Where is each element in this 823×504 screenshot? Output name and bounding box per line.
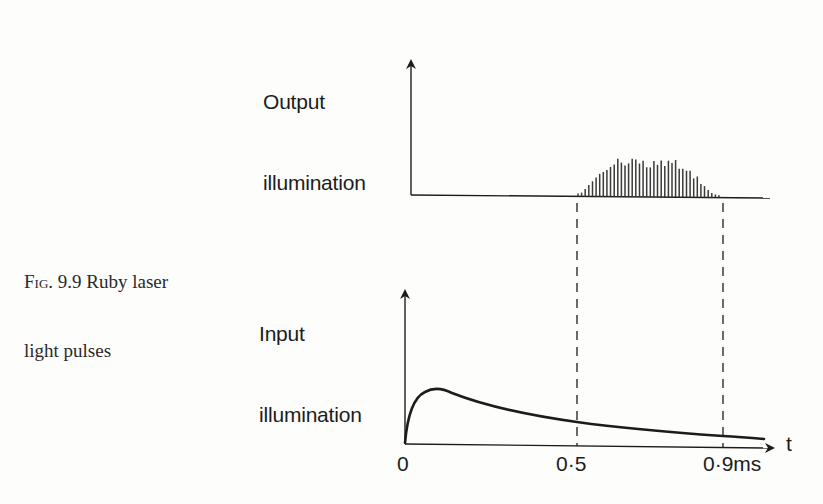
x-axis-label-t: t: [786, 432, 792, 456]
caption-line2: light pulses: [24, 339, 168, 362]
input-x-axis: [405, 444, 770, 448]
figure-page: Output illumination Input illumination 0…: [0, 0, 823, 504]
tick-label-0-9ms: 0·9ms: [703, 452, 761, 476]
input-pulse-curve: [405, 389, 764, 443]
output-ylabel-line1: Output: [263, 88, 366, 115]
figure-caption: Fig. 9.9 Ruby laser light pulses: [24, 224, 168, 408]
tick-label-0-5: 0·5: [556, 452, 586, 476]
tick-label-0: 0: [397, 452, 409, 476]
output-plot: [411, 64, 770, 198]
output-ylabel: Output illumination: [263, 34, 366, 250]
caption-fig-number: Fig. 9.9: [24, 271, 82, 292]
input-ylabel-line1: Input: [259, 320, 362, 347]
output-ylabel-line2: illumination: [263, 169, 366, 196]
input-ylabel: Input illumination: [259, 266, 362, 482]
input-plot: [405, 294, 770, 448]
output-spike-train: [578, 159, 719, 198]
caption-line1: Ruby laser: [82, 271, 169, 292]
input-ylabel-line2: illumination: [259, 401, 362, 428]
